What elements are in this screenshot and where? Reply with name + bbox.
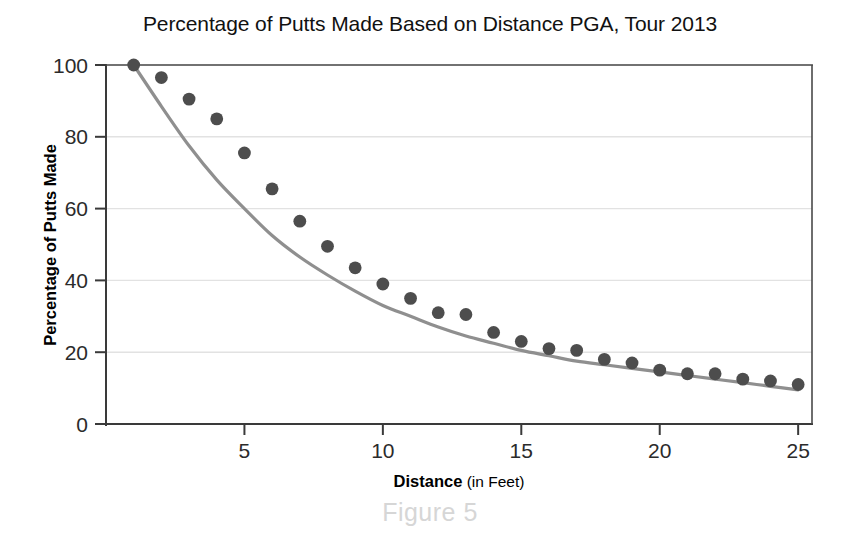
- x-tick-label: 20: [648, 439, 671, 462]
- data-point: [238, 147, 251, 160]
- y-tick-label: 60: [65, 197, 88, 220]
- data-point: [598, 353, 611, 366]
- data-point: [653, 364, 666, 377]
- trend-curve: [134, 65, 798, 390]
- scatter-plot: 020406080100 510152025 Percentage of Put…: [0, 0, 860, 553]
- data-point: [266, 182, 279, 195]
- data-point: [404, 292, 417, 305]
- data-point: [764, 375, 777, 388]
- data-point: [736, 373, 749, 386]
- data-point: [376, 278, 389, 291]
- x-tick-label: 10: [371, 439, 394, 462]
- y-tick-label: 100: [53, 54, 88, 77]
- y-tick-label: 0: [76, 413, 88, 436]
- y-axis-title: Percentage of Putts Made: [41, 144, 59, 346]
- data-point: [792, 378, 805, 391]
- data-point: [487, 326, 500, 339]
- figure-container: Percentage of Putts Made Based on Distan…: [0, 0, 860, 553]
- x-axis-title-rest: (in Feet): [462, 473, 524, 490]
- data-point: [543, 342, 556, 355]
- grid-lines: [106, 65, 812, 352]
- x-axis-ticks: 510152025: [239, 424, 810, 462]
- x-axis-title-bold: Distance: [394, 472, 463, 490]
- data-point: [210, 112, 223, 125]
- data-point: [432, 306, 445, 319]
- y-tick-label: 40: [65, 269, 88, 292]
- x-axis-title: Distance (in Feet): [394, 472, 525, 490]
- data-point: [626, 357, 639, 370]
- data-point: [349, 261, 362, 274]
- data-point: [321, 240, 334, 253]
- data-point: [570, 344, 583, 357]
- data-point: [155, 71, 168, 84]
- data-point: [681, 367, 694, 380]
- data-point: [183, 93, 196, 106]
- data-point: [515, 335, 528, 348]
- data-point: [460, 308, 473, 321]
- x-tick-label: 5: [239, 439, 251, 462]
- y-tick-label: 80: [65, 125, 88, 148]
- data-point: [293, 215, 306, 228]
- y-tick-label: 20: [65, 341, 88, 364]
- data-point: [127, 59, 140, 72]
- data-point-group: [127, 59, 804, 391]
- data-point: [709, 367, 722, 380]
- figure-caption: Figure 5: [0, 498, 860, 527]
- x-tick-label: 15: [510, 439, 533, 462]
- x-tick-label: 25: [786, 439, 809, 462]
- y-axis-ticks: 020406080100: [53, 54, 106, 436]
